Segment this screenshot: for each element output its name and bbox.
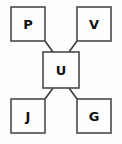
node-j[interactable]: J [11,99,45,133]
node-g-label: G [89,109,100,124]
diagram-canvas: P V U J G [0,0,122,144]
node-j-label: J [25,109,31,124]
node-p-label: P [23,17,33,32]
node-v-label: V [89,17,99,32]
node-u[interactable]: U [43,52,79,88]
edge-j-u [45,88,53,99]
node-p[interactable]: P [11,7,45,41]
node-u-label: U [56,63,67,78]
edge-v-u [69,41,77,52]
edge-p-u [45,41,53,52]
node-link-diagram: P V U J G [0,0,122,144]
node-v[interactable]: V [77,7,111,41]
node-g[interactable]: G [77,99,111,133]
edge-g-u [69,88,77,99]
